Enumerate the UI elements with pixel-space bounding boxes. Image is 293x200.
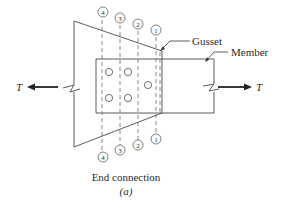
member-plate (96, 59, 214, 113)
svg-text:4: 4 (101, 154, 105, 162)
svg-text:3: 3 (118, 15, 122, 23)
figure-caption: End connection (92, 171, 161, 183)
svg-text:1: 1 (154, 27, 158, 35)
section-label-top-3: 3 (115, 13, 125, 23)
force-left-label: T (16, 81, 23, 93)
svg-text:2: 2 (136, 142, 140, 150)
force-right-label: T (256, 81, 263, 93)
force-arrow-right-head (244, 84, 252, 91)
svg-text:2: 2 (136, 21, 140, 29)
svg-text:3: 3 (118, 147, 122, 155)
svg-text:4: 4 (101, 9, 105, 17)
section-label-bottom-2: 2 (133, 140, 143, 150)
bolt-hole (124, 68, 131, 75)
figure-sublabel: (a) (120, 185, 133, 198)
svg-text:1: 1 (154, 136, 158, 144)
member-leader (206, 52, 228, 61)
bolt-hole (105, 94, 112, 101)
bolt-hole (105, 68, 112, 75)
section-label-top-4: 4 (98, 7, 108, 17)
section-label-bottom-3: 3 (115, 145, 125, 155)
end-connection-diagram: 4 3 2 1 1 2 3 4 Gusset Member T T (0, 0, 293, 200)
member-break-line (203, 84, 219, 91)
section-label-bottom-4: 4 (98, 152, 108, 162)
member-label: Member (231, 46, 269, 58)
gusset-label: Gusset (192, 35, 222, 47)
gusset-leader (161, 41, 190, 50)
section-label-top-2: 2 (133, 19, 143, 29)
bolt-hole (124, 94, 131, 101)
force-arrow-left-head (27, 84, 35, 91)
section-label-top-1: 1 (151, 25, 161, 35)
gusset-break-line (63, 85, 80, 92)
bolt-hole (144, 81, 151, 88)
section-label-bottom-1: 1 (151, 134, 161, 144)
